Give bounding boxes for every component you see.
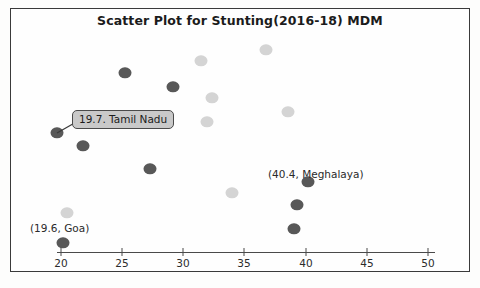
annotation-tamil-nadu[interactable]: 19.7. Tamil Nadu	[72, 110, 174, 129]
page-title: Scatter Plot for Stunting(2016-18) MDM	[0, 13, 480, 28]
annotation-meghalaya: (40.4, Meghalaya)	[268, 168, 364, 180]
annotation-goa: (19.6, Goa)	[30, 222, 89, 234]
